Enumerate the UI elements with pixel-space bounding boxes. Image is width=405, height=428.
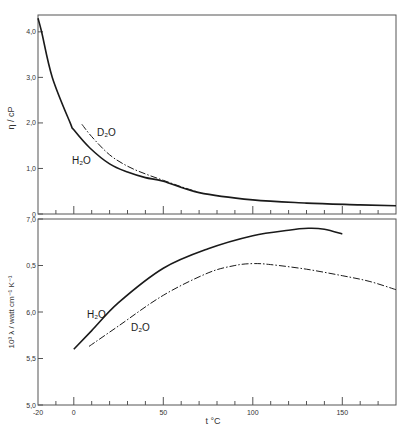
- top-d2o-label: D₂O: [97, 127, 116, 138]
- y-tick-label: 1,0: [26, 165, 36, 172]
- d2o-curve: [89, 264, 396, 347]
- y-tick-label: 2,0: [26, 119, 36, 126]
- bottom-y-axis-label: 10³ λ / watt cm⁻¹ K⁻¹: [7, 275, 16, 348]
- bottom-d2o-label: D₂O: [131, 322, 150, 333]
- figure: 01,02,03,04,0 5,05,56,00,57,0-2005010015…: [0, 0, 405, 428]
- plot-frame: [38, 15, 396, 214]
- top-h2o-label: H₂O: [72, 155, 91, 166]
- y-tick-label: 3,0: [26, 74, 36, 81]
- chart-svg: 01,02,03,04,0 5,05,56,00,57,0-2005010015…: [0, 0, 405, 428]
- h2o-curve: [38, 18, 396, 206]
- thermal-conductivity-panel: 5,05,56,00,57,0-20050100150: [26, 216, 396, 417]
- top-y-axis-label: η / cP: [6, 106, 16, 129]
- x-tick-label: -20: [33, 409, 43, 416]
- x-axis-label: t °C: [205, 416, 221, 426]
- bottom-h2o-label: H₂O: [87, 309, 106, 320]
- y-tick-label: 5,5: [26, 355, 36, 362]
- h2o-curve: [74, 228, 343, 349]
- x-tick-label: 50: [159, 409, 167, 416]
- y-tick-label: 0,5: [26, 262, 36, 269]
- viscosity-panel: 01,02,03,04,0: [26, 15, 396, 218]
- y-tick-label: 5,0: [26, 402, 36, 409]
- y-tick-label: 6,0: [26, 309, 36, 316]
- x-tick-label: 100: [247, 409, 259, 416]
- x-tick-label: 150: [336, 409, 348, 416]
- y-tick-label: 4,0: [26, 28, 36, 35]
- y-tick-label: 7,0: [26, 216, 36, 223]
- x-tick-label: 0: [72, 409, 76, 416]
